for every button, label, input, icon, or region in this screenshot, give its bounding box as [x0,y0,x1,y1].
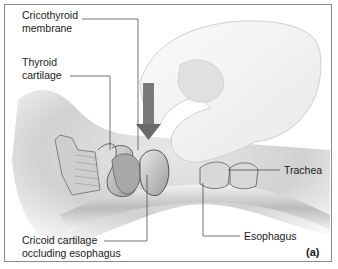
panel-label: (a) [306,246,319,258]
label-cricoid-cartilage: Cricoid cartilage occluding esophagus [22,234,121,260]
label-trachea: Trachea [284,164,322,177]
label-esophagus: Esophagus [244,230,297,243]
anatomy-illustration [0,0,338,269]
label-cricothyroid-membrane: Cricothyroid membrane [22,9,78,35]
label-thyroid-cartilage: Thyroid cartilage [22,56,62,82]
cricoid-cartilage-shape [140,150,169,196]
